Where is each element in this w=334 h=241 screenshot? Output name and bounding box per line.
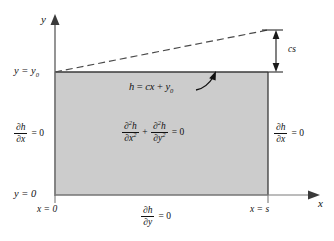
boundary-condition-bottom: ∂h ∂y = 0 bbox=[140, 205, 171, 228]
label-y-equals-zero: y = 0 bbox=[14, 189, 36, 200]
bc-bottom-denominator: ∂y bbox=[141, 217, 154, 228]
governing-t2-var: h bbox=[161, 121, 166, 131]
governing-t1-den: ∂x bbox=[124, 133, 133, 143]
bc-left-fraction: ∂h ∂x bbox=[14, 122, 27, 145]
cs-arrowhead-up bbox=[273, 30, 280, 39]
governing-term-2-denominator: ∂y2 bbox=[151, 133, 167, 144]
figure-container: y x y = y0 y = 0 x = 0 x = s cs h=cx+y0 … bbox=[0, 0, 334, 241]
bc-right-denominator: ∂x bbox=[274, 134, 287, 145]
label-x-equals-s: x = s bbox=[250, 205, 269, 215]
bc-right-numerator: ∂h bbox=[274, 122, 287, 134]
annotation-plus-sign: + bbox=[155, 81, 166, 92]
label-y-equals-y0-subscript: 0 bbox=[36, 71, 39, 78]
governing-t1-var: h bbox=[132, 121, 137, 131]
label-x-equals-zero: x = 0 bbox=[37, 205, 57, 215]
label-cs: cs bbox=[288, 45, 296, 55]
governing-term-1: ∂2h ∂x2 bbox=[122, 121, 139, 144]
bc-bottom-rhs: = 0 bbox=[155, 211, 170, 221]
governing-t1-den-exp: 2 bbox=[133, 131, 136, 138]
governing-term-2: ∂2h ∂y2 bbox=[151, 121, 168, 144]
governing-t2-den: ∂y bbox=[153, 133, 162, 143]
bc-right-fraction: ∂h ∂x bbox=[274, 122, 287, 145]
label-y-equals-y0: y = y0 bbox=[14, 66, 39, 77]
boundary-condition-left: ∂h ∂x = 0 bbox=[13, 122, 44, 145]
governing-t2-den-exp: 2 bbox=[162, 131, 165, 138]
governing-operator: + bbox=[140, 127, 150, 137]
annotation-y-subscript: 0 bbox=[170, 87, 173, 94]
bc-bottom-numerator: ∂h bbox=[141, 205, 154, 217]
bc-right-rhs: = 0 bbox=[288, 128, 303, 138]
y-axis-label: y bbox=[41, 14, 46, 25]
annotation-eq-sign: = bbox=[134, 81, 145, 92]
bc-bottom-fraction: ∂h ∂y bbox=[141, 205, 154, 228]
label-y-equals-y0-text: y = y bbox=[14, 65, 36, 76]
boundary-condition-right: ∂h ∂x = 0 bbox=[273, 122, 304, 145]
governing-term-1-denominator: ∂x2 bbox=[122, 133, 138, 144]
annotation-water-table-equation: h=cx+y0 bbox=[129, 82, 173, 93]
y-axis-arrowhead bbox=[51, 14, 60, 25]
bc-left-numerator: ∂h bbox=[14, 122, 27, 134]
governing-equation: ∂2h ∂x2 + ∂2h ∂y2 = 0 bbox=[121, 121, 184, 144]
bc-left-rhs: = 0 bbox=[28, 128, 43, 138]
x-axis-label: x bbox=[318, 198, 323, 209]
water-table-dashed-line bbox=[55, 30, 268, 72]
annotation-cx: cx bbox=[145, 81, 154, 92]
bc-left-denominator: ∂x bbox=[14, 134, 27, 145]
governing-rhs: = 0 bbox=[169, 127, 184, 137]
cs-arrowhead-down bbox=[273, 63, 280, 72]
